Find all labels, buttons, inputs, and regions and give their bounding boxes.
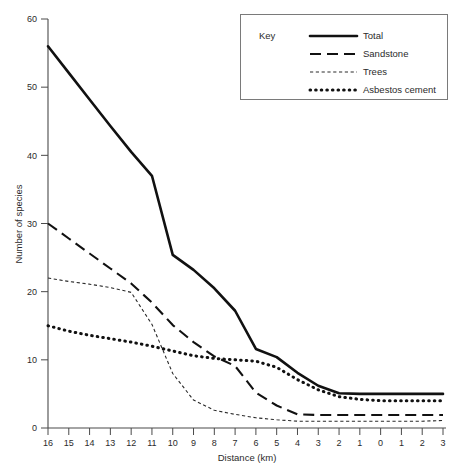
series-line-sandstone bbox=[48, 224, 443, 416]
legend-label-trees: Trees bbox=[363, 66, 387, 77]
x-tick-label: 1 bbox=[399, 438, 404, 448]
x-tick-label: 0 bbox=[378, 438, 383, 448]
y-tick-label: 20 bbox=[27, 287, 37, 297]
y-axis-ticks: 0102030405060 bbox=[27, 14, 48, 433]
y-tick-label: 40 bbox=[27, 151, 37, 161]
y-axis-title: Number of species bbox=[13, 184, 24, 263]
x-tick-label: 6 bbox=[253, 438, 258, 448]
data-series-group bbox=[48, 46, 443, 421]
y-tick-label: 0 bbox=[32, 423, 37, 433]
legend-title: Key bbox=[259, 30, 276, 41]
y-tick-label: 30 bbox=[27, 219, 37, 229]
legend: Key TotalSandstoneTreesAsbestos cement bbox=[241, 15, 448, 100]
x-axis-title: Distance (km) bbox=[218, 452, 277, 463]
x-tick-label: 8 bbox=[212, 438, 217, 448]
x-tick-label: 4 bbox=[295, 438, 300, 448]
x-tick-label: 10 bbox=[168, 438, 178, 448]
legend-label-sandstone: Sandstone bbox=[363, 48, 408, 59]
y-tick-label: 10 bbox=[27, 355, 37, 365]
x-tick-label: 13 bbox=[105, 438, 115, 448]
x-tick-label: 3 bbox=[440, 438, 445, 448]
chart-container: 0102030405060 16151413121110987654321012… bbox=[0, 0, 456, 466]
x-tick-label: 2 bbox=[420, 438, 425, 448]
x-tick-label: 1 bbox=[357, 438, 362, 448]
x-tick-label: 5 bbox=[274, 438, 279, 448]
legend-label-total: Total bbox=[363, 30, 383, 41]
y-tick-label: 60 bbox=[27, 14, 37, 24]
x-axis-ticks: 161514131211109876543210123 bbox=[43, 428, 446, 448]
x-tick-label: 12 bbox=[126, 438, 136, 448]
x-tick-label: 2 bbox=[337, 438, 342, 448]
series-line-asbestos-cement bbox=[48, 326, 443, 401]
x-tick-label: 15 bbox=[64, 438, 74, 448]
x-tick-label: 14 bbox=[85, 438, 95, 448]
x-tick-label: 11 bbox=[147, 438, 156, 448]
y-tick-label: 50 bbox=[27, 82, 37, 92]
x-tick-label: 9 bbox=[191, 438, 196, 448]
x-tick-label: 7 bbox=[233, 438, 238, 448]
legend-label-asbestos-cement: Asbestos cement bbox=[363, 84, 436, 95]
x-tick-label: 16 bbox=[43, 438, 53, 448]
species-distance-line-chart: 0102030405060 16151413121110987654321012… bbox=[0, 0, 456, 466]
x-tick-label: 3 bbox=[316, 438, 321, 448]
